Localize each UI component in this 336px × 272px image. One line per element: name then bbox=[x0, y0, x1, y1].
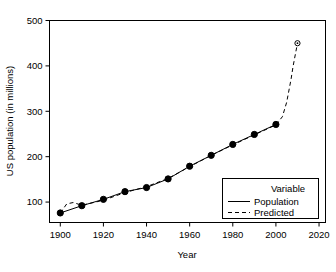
legend-label-predicted: Predicted bbox=[254, 207, 294, 218]
x-tick-label: 1960 bbox=[179, 229, 200, 240]
y-axis-title: US population (in millions) bbox=[4, 66, 15, 176]
data-point-population bbox=[273, 121, 279, 127]
data-point-population bbox=[208, 152, 214, 158]
data-point-population bbox=[187, 163, 193, 169]
x-tick-label: 1900 bbox=[50, 229, 71, 240]
legend: Variable Population Predicted bbox=[223, 179, 319, 219]
x-tick-label: 1980 bbox=[222, 229, 243, 240]
data-point-population bbox=[100, 196, 106, 202]
x-tick-label: 2020 bbox=[308, 229, 329, 240]
series-predicted-markers bbox=[295, 41, 300, 46]
data-point-population bbox=[79, 203, 85, 209]
data-point-population bbox=[143, 184, 149, 190]
x-tick-label: 1940 bbox=[136, 229, 157, 240]
y-tick-label: 300 bbox=[27, 106, 43, 117]
y-tick-label: 500 bbox=[27, 15, 43, 26]
population-line-chart: 100200300400500 190019201940196019802000… bbox=[0, 0, 336, 272]
data-point-population bbox=[122, 189, 128, 195]
data-point-population bbox=[251, 131, 257, 137]
y-tick-label: 400 bbox=[27, 60, 43, 71]
y-tick-label: 200 bbox=[27, 151, 43, 162]
legend-label-population: Population bbox=[254, 196, 299, 207]
data-point-population bbox=[57, 210, 63, 216]
data-point-population bbox=[230, 141, 236, 147]
x-tick-label: 2000 bbox=[265, 229, 286, 240]
chart-figure: 100200300400500 190019201940196019802000… bbox=[0, 0, 336, 272]
legend-title: Variable bbox=[271, 183, 305, 194]
x-axis-title: Year bbox=[177, 249, 196, 260]
data-point-population bbox=[165, 176, 171, 182]
y-tick-label: 100 bbox=[27, 196, 43, 207]
data-point-predicted-endpoint-center bbox=[297, 42, 299, 44]
x-tick-label: 1920 bbox=[93, 229, 114, 240]
